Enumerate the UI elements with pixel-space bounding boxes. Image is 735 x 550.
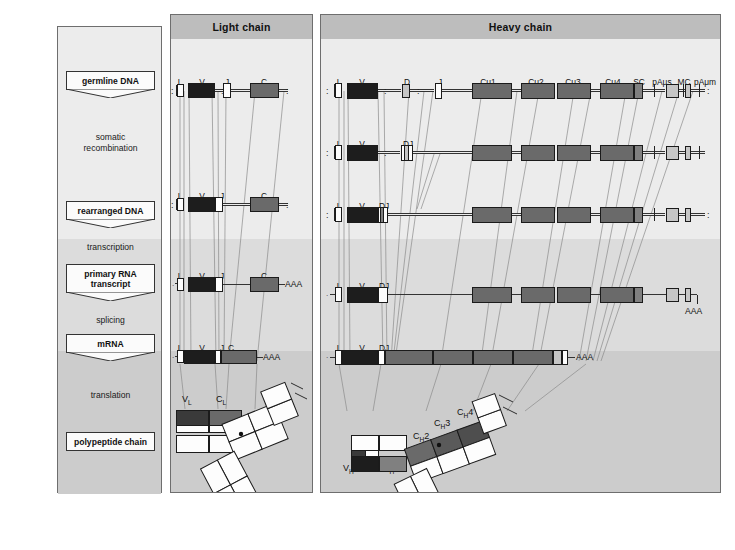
segment-end — [685, 288, 691, 302]
segment-Cmu2 — [521, 207, 555, 223]
stage-label-line2: recombination — [62, 143, 159, 154]
stage-step-splicing: splicing — [62, 315, 159, 326]
stage-tag-germline-dna[interactable]: germline DNA — [66, 71, 155, 90]
left-cap-dot: · — [326, 354, 328, 361]
segment-V — [184, 350, 215, 364]
segment-SC — [634, 287, 643, 303]
segment-DJ — [378, 350, 385, 365]
segment-Cmu2 — [521, 83, 555, 99]
segment-L — [335, 145, 342, 160]
right-continuation-dots: : — [707, 211, 710, 220]
segment-J — [215, 197, 223, 212]
segment-L — [335, 83, 342, 98]
intron-line — [388, 294, 472, 295]
stage-tag-mrna[interactable]: mRNA — [66, 334, 155, 353]
segment-MC — [666, 84, 679, 98]
antibody-schematic — [321, 379, 720, 492]
segment-Cmu4 — [600, 83, 634, 99]
band-mid — [171, 239, 312, 351]
chevron-down-icon — [66, 292, 155, 301]
segment-Cmu4 — [600, 287, 634, 303]
intron-line — [512, 213, 521, 216]
stage-step-somatic-recombination: somatic recombination — [62, 132, 159, 153]
segment-DJ — [378, 287, 388, 303]
segment-Cmu3 — [557, 145, 591, 161]
left-continuation-dots: : — [171, 87, 174, 96]
stage-label: translation — [62, 390, 159, 401]
left-continuation-dots: : — [326, 211, 329, 220]
segment-Cmu2 — [433, 350, 473, 365]
segment-C — [221, 350, 257, 364]
segment-Cmu4 — [513, 350, 553, 365]
intron-line — [591, 213, 600, 216]
segment-D-inner — [380, 207, 384, 223]
segment-MC — [666, 288, 679, 302]
segment-V — [347, 83, 378, 99]
light-chain-header: Light chain — [171, 15, 312, 40]
intron-line — [223, 284, 250, 285]
heavy-chain-header: Heavy chain — [321, 15, 720, 40]
segment-pAmus — [654, 146, 655, 159]
segment-V — [347, 207, 378, 223]
stage-label: transcription — [62, 242, 159, 253]
segment-V — [188, 277, 215, 292]
intron-dots: : — [384, 87, 387, 96]
light-chain-panel: Light chain L — [170, 14, 313, 493]
left-cap-dot: · — [172, 354, 174, 361]
segment-SC — [634, 83, 643, 99]
intron-line — [378, 89, 401, 92]
intron-dots: : — [417, 87, 420, 96]
segment-V — [347, 287, 378, 303]
stage-label-line1: somatic — [62, 132, 159, 143]
intron-line — [388, 213, 472, 216]
segment-L — [335, 287, 342, 302]
segment-Cmu2 — [521, 145, 555, 161]
segment-L — [177, 278, 184, 291]
stage-label-line1: primary RNA — [84, 269, 137, 279]
figure-root: germline DNA somatic recombination rearr… — [0, 0, 735, 550]
stage-sidebar: germline DNA somatic recombination rearr… — [57, 26, 162, 493]
stage-label: polypeptide chain — [74, 437, 147, 447]
segment-Cmu1 — [472, 83, 512, 99]
stage-tag-primary-rna-transcript[interactable]: primary RNA transcript — [66, 264, 155, 293]
chevron-down-icon — [66, 219, 155, 228]
intron-line — [512, 89, 521, 92]
intron-line — [691, 151, 705, 154]
segment-Cmu1 — [385, 350, 433, 365]
segment-L — [177, 350, 184, 363]
stage-step-transcription: transcription — [62, 242, 159, 253]
right-continuation-dots: : — [286, 87, 289, 96]
intron-line — [442, 89, 472, 92]
intron-line — [413, 151, 472, 154]
stage-tag-polypeptide-chain[interactable]: polypeptide chain — [66, 432, 155, 451]
intron-line — [223, 203, 250, 206]
segment-V — [188, 197, 215, 212]
heavy-chain-panel: Heavy chain — [320, 14, 721, 493]
intron-line — [591, 294, 600, 295]
segment-J — [215, 277, 223, 292]
segment-C — [250, 83, 279, 98]
left-cap-dot: · — [326, 292, 328, 299]
tick — [683, 84, 684, 97]
stage-tag-rearranged-dna[interactable]: rearranged DNA — [66, 201, 155, 220]
intron-line — [512, 151, 521, 154]
left-cap-dot: · — [172, 282, 174, 289]
segment-MC — [666, 208, 679, 222]
intron-line — [410, 89, 434, 92]
polya-tail-label: AAA — [263, 352, 280, 362]
chevron-down-icon — [66, 352, 155, 361]
segment-V — [342, 350, 378, 365]
right-continuation-dots: : — [286, 201, 289, 210]
left-continuation-dots: : — [326, 87, 329, 96]
segment-Cmu3 — [557, 287, 591, 303]
polya-stem — [697, 295, 698, 304]
polya-line — [568, 357, 575, 358]
stage-label: splicing — [62, 315, 159, 326]
segment-Cmu1 — [472, 287, 512, 303]
segment-Cmu1 — [472, 207, 512, 223]
polya-tail-label: AAA — [285, 279, 302, 289]
seg-label-pAmum: pAμm — [688, 77, 720, 87]
segment-L — [335, 350, 342, 365]
segment-Cmu1 — [472, 145, 512, 161]
segment-pAmus — [654, 208, 655, 221]
